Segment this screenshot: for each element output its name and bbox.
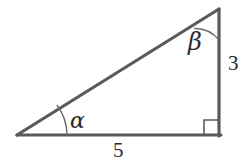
angle-beta-label: β (188, 30, 202, 54)
right-angle-marker-icon (204, 120, 219, 135)
side-length-vertical-label: 3 (228, 53, 239, 74)
side-length-horizontal-label: 5 (113, 140, 124, 161)
triangle-drawing (0, 0, 247, 162)
right-triangle-figure: α β 3 5 (0, 0, 247, 162)
angle-alpha-label: α (70, 110, 85, 132)
